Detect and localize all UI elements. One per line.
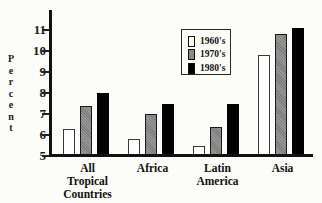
- legend-item-1980s: 1980's: [188, 62, 230, 74]
- bar-1970-s-africa: [145, 114, 157, 156]
- legend-label-1980s: 1980's: [200, 63, 225, 74]
- x-axis-label-asia: Asia: [243, 162, 322, 175]
- legend-label-1970s: 1970's: [200, 49, 225, 60]
- y-axis-line: [49, 10, 52, 157]
- bar-1980-s-latin-america: [227, 104, 239, 157]
- legend-item-1970s: 1970's: [188, 49, 230, 61]
- bar-1970-s-asia: [275, 34, 287, 156]
- x-axis-labels: AllTropicalCountriesAfricaLatinAmericaAs…: [0, 162, 322, 203]
- bar-1980-s-all-tropical-countries: [97, 93, 109, 156]
- bar-1980-s-africa: [162, 104, 174, 157]
- bar-1960-s-all-tropical-countries: [63, 129, 75, 156]
- x-axis-line: [49, 154, 313, 157]
- bar-1960-s-asia: [258, 55, 270, 156]
- legend-label-1960s: 1960's: [200, 36, 225, 47]
- legend-item-1960s: 1960's: [188, 35, 230, 47]
- legend-swatch-1970s: [188, 49, 195, 60]
- bar-1980-s-asia: [292, 28, 304, 156]
- bar-1970-s-all-tropical-countries: [80, 106, 92, 156]
- legend-swatch-1960s: [188, 36, 195, 47]
- legend: 1960's 1970's 1980's: [181, 29, 231, 75]
- bar-chart-figure: Percent 111098765 1960's 1970's 1980's A…: [0, 0, 322, 203]
- legend-swatch-1980s: [188, 63, 195, 74]
- bar-1970-s-latin-america: [210, 127, 222, 156]
